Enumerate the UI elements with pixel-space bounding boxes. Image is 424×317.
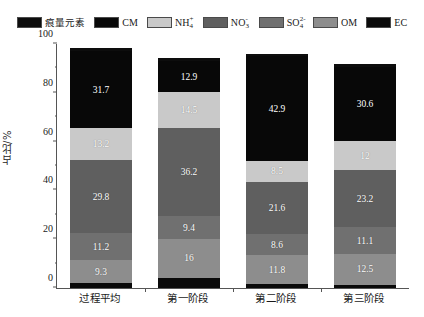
bar-value-label: 29.8 <box>93 192 110 202</box>
bar-value-label: 31.7 <box>93 85 110 95</box>
legend-item-CM[interactable]: CM <box>94 17 138 28</box>
legend-swatch-CM <box>94 17 119 28</box>
bar-segment-第二阶段-CM[interactable]: 42.9 <box>246 56 308 161</box>
x-axis-label-第一阶段: 第一阶段 <box>157 292 219 305</box>
bar-value-label: 9.4 <box>183 223 195 233</box>
y-tick-label-100: 100 <box>38 29 57 39</box>
bar-column-第三阶段[interactable]: 30.61223.211.112.5 <box>334 44 396 288</box>
bar-segment-第二阶段-OM[interactable]: 11.8 <box>246 255 308 284</box>
bar-segment-过程平均-SO42-[interactable]: 11.2 <box>70 233 132 260</box>
legend-swatch-OM <box>313 17 338 28</box>
bar-segment-第二阶段-NH4+[interactable]: 8.5 <box>246 161 308 182</box>
legend-label-NO3-: NO-3 <box>231 17 250 28</box>
legend-swatch-痕量元素 <box>17 17 42 28</box>
bar-segment-第三阶段-NO3-[interactable]: 23.2 <box>334 170 396 227</box>
bar-value-label: 36.2 <box>181 167 198 177</box>
bar-segment-第一阶段-OM[interactable]: 16 <box>158 239 220 278</box>
bar-segment-第三阶段-SO42-[interactable]: 11.1 <box>334 227 396 254</box>
bar-segment-第一阶段-EC[interactable] <box>158 278 220 288</box>
legend-swatch-NO3- <box>203 17 228 28</box>
bar-segment-第一阶段-CM[interactable]: 12.9 <box>158 61 220 92</box>
legend-label-CM: CM <box>122 17 138 28</box>
legend-label-EC: EC <box>394 17 407 28</box>
bar-column-第一阶段[interactable]: 12.914.536.29.416 <box>158 44 220 288</box>
y-axis-label: 占比/% <box>2 130 16 165</box>
bar-segment-第二阶段-EC[interactable] <box>246 284 308 288</box>
stacked-bars: 31.713.229.811.29.312.914.536.29.41642.9… <box>57 44 409 288</box>
bar-value-label: 11.8 <box>269 265 285 275</box>
bar-segment-第三阶段-OM[interactable]: 12.5 <box>334 254 396 285</box>
bar-value-label: 23.2 <box>357 194 374 204</box>
x-axis-label-第二阶段: 第二阶段 <box>245 292 307 305</box>
x-axis-label-第三阶段: 第三阶段 <box>333 292 395 305</box>
legend-item-OM[interactable]: OM <box>313 17 357 28</box>
bar-segment-第三阶段-EC[interactable] <box>334 285 396 288</box>
y-tick-label-0: 0 <box>48 273 57 283</box>
x-axis-labels: 过程平均第一阶段第二阶段第三阶段 <box>56 292 408 314</box>
legend-swatch-EC <box>366 17 391 28</box>
bar-value-label: 11.2 <box>93 242 109 252</box>
legend-item-痕量元素[interactable]: 痕量元素 <box>17 17 85 28</box>
bar-segment-第一阶段-SO42-[interactable]: 9.4 <box>158 216 220 239</box>
bar-value-label: 8.5 <box>271 166 283 176</box>
bar-segment-第三阶段-NH4+[interactable]: 12 <box>334 141 396 170</box>
bar-value-label: 42.9 <box>269 104 286 114</box>
chart-legend: 痕量元素CMNH+4 NO-3 SO2-4 OMEC <box>0 10 424 34</box>
bar-segment-第二阶段-NO3-[interactable]: 21.6 <box>246 182 308 235</box>
bar-segment-过程平均-OM[interactable]: 9.3 <box>70 260 132 283</box>
bar-value-label: 8.6 <box>271 240 283 250</box>
bar-segment-过程平均-CM[interactable]: 31.7 <box>70 51 132 128</box>
y-tick-label-60: 60 <box>43 127 57 137</box>
bar-value-label: 16 <box>184 253 194 263</box>
bar-value-label: 30.6 <box>357 99 374 109</box>
bar-value-label: 12 <box>360 151 370 161</box>
bar-segment-第一阶段-NO3-[interactable]: 36.2 <box>158 128 220 216</box>
y-tick-label-40: 40 <box>43 175 57 185</box>
legend-item-EC[interactable]: EC <box>366 17 407 28</box>
legend-label-SO42-: SO2-4 <box>287 17 304 28</box>
legend-swatch-NH4+ <box>147 17 172 28</box>
bar-segment-过程平均-EC[interactable] <box>70 283 132 288</box>
legend-item-NH4+[interactable]: NH+4 <box>147 17 194 28</box>
bar-segment-第一阶段-NH4+[interactable]: 14.5 <box>158 92 220 127</box>
bar-value-label: 12.9 <box>181 72 198 82</box>
bar-column-第二阶段[interactable]: 42.98.521.68.611.8 <box>246 44 308 288</box>
bar-column-过程平均[interactable]: 31.713.229.811.29.3 <box>70 44 132 288</box>
bar-segment-过程平均-NH4+[interactable]: 13.2 <box>70 128 132 160</box>
bar-value-label: 21.6 <box>269 203 286 213</box>
bar-value-label: 9.3 <box>95 267 107 277</box>
y-tick-label-80: 80 <box>43 78 57 88</box>
bar-segment-第二阶段-SO42-[interactable]: 8.6 <box>246 234 308 255</box>
bar-value-label: 11.1 <box>357 236 373 246</box>
legend-item-SO42-[interactable]: SO2-4 <box>259 17 304 28</box>
bar-value-label: 14.5 <box>181 105 198 115</box>
legend-label-痕量元素: 痕量元素 <box>45 17 85 28</box>
legend-swatch-SO42- <box>259 17 284 28</box>
plot-area: 020406080100 31.713.229.811.29.312.914.5… <box>56 44 409 289</box>
bar-value-label: 13.2 <box>93 139 110 149</box>
bar-value-label: 12.5 <box>357 264 374 274</box>
legend-label-NH4+: NH+4 <box>175 17 194 28</box>
bar-segment-过程平均-NO3-[interactable]: 29.8 <box>70 160 132 233</box>
legend-label-OM: OM <box>341 17 357 28</box>
legend-item-NO3-[interactable]: NO-3 <box>203 17 250 28</box>
bar-segment-第三阶段-CM[interactable]: 30.6 <box>334 67 396 142</box>
y-tick-label-20: 20 <box>43 224 57 234</box>
x-axis-label-过程平均: 过程平均 <box>69 292 131 305</box>
